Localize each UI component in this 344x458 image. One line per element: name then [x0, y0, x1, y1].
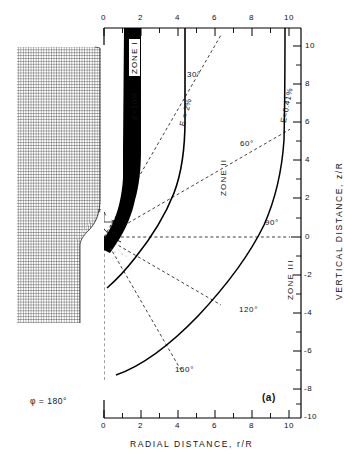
- y-tick-2: 2: [305, 193, 310, 202]
- x-tick-top-2: 2: [138, 13, 143, 22]
- contour-label-e10: E=10%: [130, 92, 139, 120]
- contour-e-041: [116, 28, 285, 375]
- y-tick-neg2: -2: [304, 270, 312, 279]
- radial-line-150: [104, 237, 182, 372]
- y-tick-10: 10: [305, 41, 315, 50]
- angle-label-60: 60°: [240, 139, 254, 148]
- zone-1-label: ZONE I: [129, 39, 140, 76]
- x-axis-ticks-bottom: [104, 410, 289, 418]
- origin-z-label: z: [98, 207, 102, 213]
- y-axis-title: VERTICAL DISTANCE, z/R: [334, 162, 344, 300]
- y-tick-neg4: -4: [304, 308, 312, 317]
- x-axis-title: RADIAL DISTANCE, r/R: [130, 439, 253, 449]
- zone-3-label: ZONE III: [286, 259, 295, 300]
- angle-label-120: 120°: [239, 305, 258, 314]
- x-tick-top-10: 10: [284, 13, 294, 22]
- x-tick-bottom-10: 10: [284, 421, 294, 430]
- y-tick-0: 0: [305, 232, 310, 241]
- x-tick-top-0: 0: [101, 13, 106, 22]
- computational-mesh: [17, 47, 101, 323]
- radial-line-120: [104, 237, 221, 305]
- y-tick-6: 6: [305, 117, 310, 126]
- x-tick-top-4: 4: [175, 13, 180, 22]
- y-tick-neg8: -8: [304, 384, 312, 393]
- figure-panel: 0 2 4 6 8 10 0 2 4 6 8 10 10 8 6 4 2 0 -…: [0, 0, 344, 458]
- y-tick-neg6: -6: [304, 346, 312, 355]
- phi-label: φ = 180°: [30, 396, 67, 406]
- x-tick-bottom-8: 8: [249, 421, 254, 430]
- origin-r-label: r: [110, 223, 113, 229]
- x-tick-top-8: 8: [249, 13, 254, 22]
- angle-label-150: 150°: [175, 365, 194, 374]
- y-tick-neg10: -10: [304, 412, 317, 421]
- x-tick-bottom-0: 0: [101, 421, 106, 430]
- x-tick-bottom-4: 4: [175, 421, 180, 430]
- angle-label-90: 90°: [265, 218, 279, 227]
- zone-2-label: ZONE II: [219, 159, 228, 196]
- origin-stipple: [111, 249, 129, 262]
- x-tick-bottom-6: 6: [212, 421, 217, 430]
- contour-e-2: [107, 28, 185, 288]
- y-tick-4: 4: [305, 155, 310, 164]
- x-tick-bottom-2: 2: [138, 421, 143, 430]
- x-tick-top-6: 6: [212, 13, 217, 22]
- figure-graphics: [0, 0, 344, 458]
- angle-label-30: 30°: [187, 70, 201, 79]
- y-tick-8: 8: [305, 79, 310, 88]
- origin-axis-annotation: [102, 212, 115, 224]
- panel-label: (a): [262, 392, 276, 403]
